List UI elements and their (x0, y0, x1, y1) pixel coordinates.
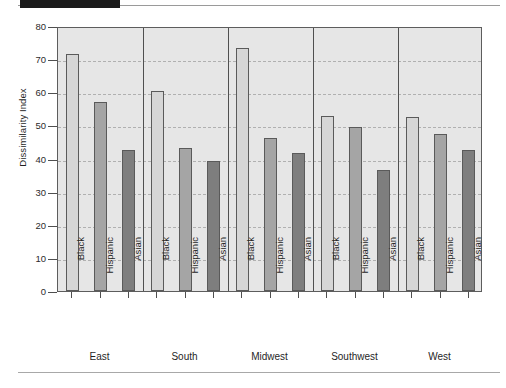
x-axis-tick (411, 292, 412, 298)
x-axis-group-label: East (57, 352, 142, 362)
x-axis-category-label: Hispanic (445, 237, 455, 301)
x-axis-tick (298, 292, 299, 298)
x-axis-category-label: Hispanic (190, 237, 200, 301)
group-separator (228, 28, 229, 291)
y-axis-tick (48, 60, 57, 61)
x-axis-group-label: South (142, 352, 227, 362)
x-axis-tick (185, 292, 186, 298)
x-axis-category-label: Asian (303, 237, 313, 301)
y-axis-tick-label: 80 (4, 22, 46, 32)
x-axis-category-label: Hispanic (105, 237, 115, 301)
y-axis-tick-label: 70 (4, 55, 46, 65)
gridline (58, 61, 481, 62)
y-axis-tick (48, 259, 57, 260)
x-axis-tick (270, 292, 271, 298)
x-axis-category-label: Hispanic (275, 237, 285, 301)
group-separator (143, 28, 144, 291)
y-axis-tick-label: 0 (4, 287, 46, 297)
x-axis-tick (100, 292, 101, 298)
group-separator (398, 28, 399, 291)
x-axis-category-label: Asian (473, 237, 483, 301)
x-axis-category-label: Asian (218, 237, 228, 301)
y-axis-tick (48, 126, 57, 127)
x-axis-group-label: Midwest (227, 352, 312, 362)
y-axis-tick (48, 292, 57, 293)
x-axis-category-label: Black (416, 237, 426, 301)
y-axis-tick (48, 226, 57, 227)
x-axis-group-label: West (397, 352, 482, 362)
y-axis-tick-label: 20 (4, 221, 46, 231)
x-axis-category-label: Black (246, 237, 256, 301)
x-axis-group-label: Southwest (312, 352, 397, 362)
x-axis-tick (128, 292, 129, 298)
y-axis-tick (48, 193, 57, 194)
y-axis-tick-label: 10 (4, 254, 46, 264)
y-axis-tick-label: 30 (4, 188, 46, 198)
y-axis-tick (48, 93, 57, 94)
group-separator (313, 28, 314, 291)
x-axis-tick (440, 292, 441, 298)
x-axis-tick (355, 292, 356, 298)
x-axis-category-label: Black (331, 237, 341, 301)
chart-figure: 01020304050607080 Dissimilarity Index Bl… (0, 0, 506, 388)
gridline (58, 94, 481, 95)
x-axis-tick (383, 292, 384, 298)
y-axis-title: Dissimilarity Index (17, 68, 28, 188)
x-axis-tick (241, 292, 242, 298)
x-axis-tick (156, 292, 157, 298)
y-axis-labels: 01020304050607080 (0, 0, 46, 388)
x-axis-tick (71, 292, 72, 298)
bottom-rule (18, 372, 500, 373)
x-axis-tick (213, 292, 214, 298)
x-axis-category-label: Asian (133, 237, 143, 301)
x-axis-category-label: Black (161, 237, 171, 301)
x-axis-category-label: Asian (388, 237, 398, 301)
x-axis-tick (468, 292, 469, 298)
x-axis-category-label: Black (76, 237, 86, 301)
x-axis-tick (326, 292, 327, 298)
x-axis-category-label: Hispanic (360, 237, 370, 301)
y-axis-tick (48, 160, 57, 161)
y-axis-tick (48, 27, 57, 28)
